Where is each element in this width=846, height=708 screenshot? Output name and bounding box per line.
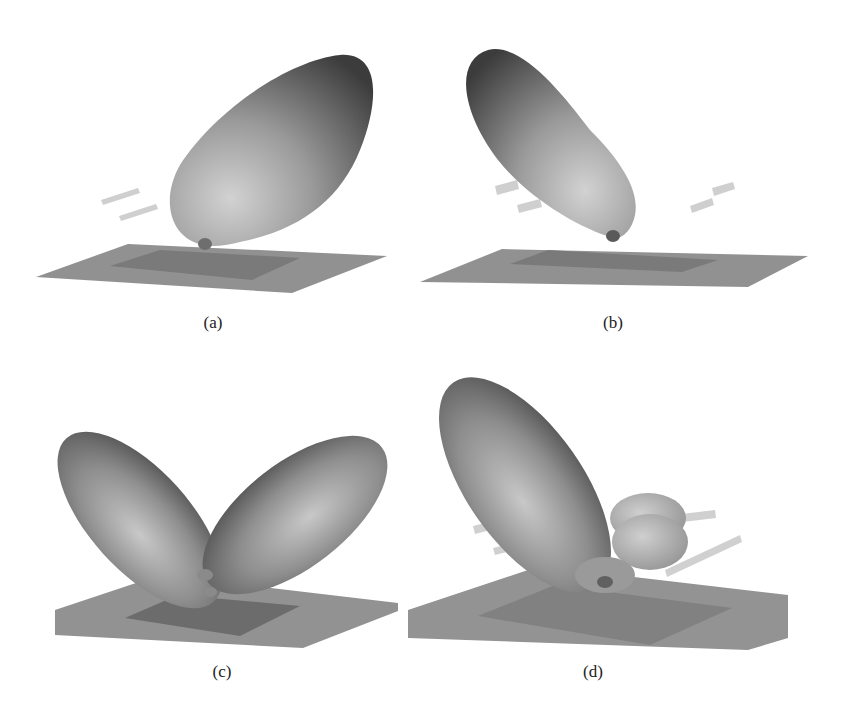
radiation-pattern-b <box>420 0 846 350</box>
main-lobe <box>170 55 373 250</box>
panel-b: (b) <box>420 0 846 350</box>
radiation-pattern-a <box>0 0 420 350</box>
feed-strips <box>101 188 158 221</box>
caption-d: (d) <box>563 662 623 682</box>
panel-d: (d) <box>400 380 846 708</box>
main-lobe <box>466 49 636 242</box>
caption-c: (c) <box>192 662 252 682</box>
caption-b: (b) <box>583 313 643 333</box>
panel-c: (c) <box>0 380 420 708</box>
side-lobes <box>610 493 688 570</box>
caption-a: (a) <box>183 313 243 333</box>
radiation-pattern-d <box>400 380 846 708</box>
radiation-pattern-c <box>0 380 420 708</box>
panel-a: (a) <box>0 0 420 350</box>
